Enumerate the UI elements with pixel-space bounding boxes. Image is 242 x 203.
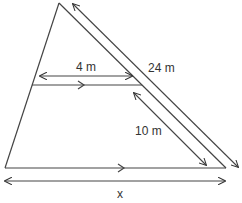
label-x: x (117, 187, 123, 201)
triangle (5, 3, 226, 168)
triangle-diagram: 4 m 24 m 10 m x (0, 0, 242, 203)
label-10m: 10 m (135, 124, 162, 138)
label-4m: 4 m (76, 60, 96, 74)
label-24m: 24 m (148, 61, 175, 75)
